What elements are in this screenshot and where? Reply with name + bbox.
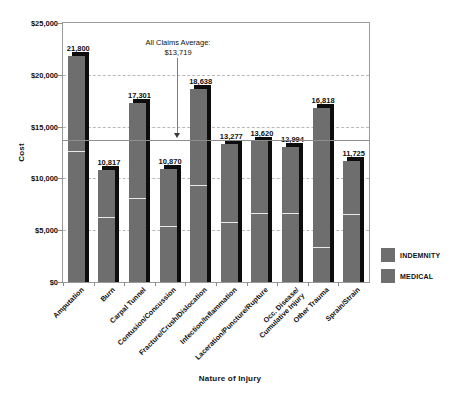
x-axis-category-label: Infection/Inflammation (179, 286, 239, 346)
bar-medical-segment[interactable] (313, 108, 330, 282)
bar-group[interactable] (160, 165, 181, 282)
x-axis-title: Nature of Injury (0, 374, 460, 383)
bar-indemnity-segment[interactable] (129, 198, 146, 282)
y-axis-tick-label: $0 (0, 278, 58, 287)
x-axis-category-line: Contusion/Concussion (116, 286, 178, 348)
bar-medical-segment[interactable] (282, 147, 299, 282)
annotation-line-1: All Claims Average: (146, 38, 211, 47)
bar-medical-segment[interactable] (343, 161, 360, 282)
x-axis-category-label: Amputation (52, 286, 86, 320)
bar-group[interactable] (98, 166, 119, 282)
bar-medical-segment[interactable] (190, 89, 207, 282)
annotation-line-2: $13,719 (118, 48, 238, 58)
bar-group[interactable] (190, 85, 211, 282)
bar-value-label: 21,800 (58, 44, 98, 53)
y-axis-tick-label: $5,000 (0, 226, 58, 235)
x-axis-category-label: Burn (99, 286, 117, 304)
chart-figure: Cost Nature of Injury $0$5,000$10,000$15… (0, 0, 460, 399)
legend-label: INDEMNITY (400, 252, 440, 259)
bar-group[interactable] (68, 52, 89, 282)
bar-group[interactable] (343, 157, 364, 282)
x-axis-category-line: Amputation (52, 286, 86, 320)
plot-inner: $0$5,000$10,000$15,000$20,000$25,000 21,… (63, 23, 369, 282)
x-axis-category-line: Infection/Inflammation (179, 286, 239, 346)
bar-indemnity-segment[interactable] (160, 226, 177, 282)
bar-indemnity-segment[interactable] (251, 213, 268, 282)
bar-group[interactable] (282, 143, 303, 282)
bar-value-label: 17,301 (120, 91, 160, 100)
bar-medical-segment[interactable] (221, 144, 238, 282)
plot-area: $0$5,000$10,000$15,000$20,000$25,000 21,… (62, 22, 370, 283)
bar-indemnity-segment[interactable] (282, 213, 299, 282)
y-axis-tick-label: $20,000 (0, 70, 58, 79)
bar-indemnity-segment[interactable] (221, 222, 238, 282)
annotation-arrow-line (177, 58, 178, 135)
bar-value-label: 11,725 (334, 149, 374, 158)
bar-medical-segment[interactable] (68, 56, 85, 282)
bar-value-label: 10,870 (150, 157, 190, 166)
x-axis-category-label: Contusion/Concussion (116, 286, 178, 348)
bar-medical-segment[interactable] (129, 103, 146, 282)
legend-swatch (381, 269, 395, 283)
legend-item[interactable]: MEDICAL (381, 269, 440, 283)
bar-group[interactable] (221, 140, 242, 282)
y-axis-tick-label: $15,000 (0, 122, 58, 131)
average-line (63, 140, 369, 141)
bar-indemnity-segment[interactable] (343, 214, 360, 282)
annotation-arrow-head-icon (174, 133, 180, 138)
bar-group[interactable] (129, 99, 150, 282)
x-axis-category-line: Burn (99, 286, 117, 304)
bar-group[interactable] (251, 137, 272, 282)
bar-indemnity-segment[interactable] (313, 247, 330, 282)
bar-medical-segment[interactable] (251, 141, 268, 282)
bar-series: 21,80010,81717,30110,87018,63813,27713,6… (63, 23, 369, 282)
legend-item[interactable]: INDEMNITY (381, 248, 440, 262)
bar-indemnity-segment[interactable] (98, 217, 115, 282)
x-axis-category-labels: AmputationBurnCarpal TunnelContusion/Con… (62, 286, 370, 372)
bar-indemnity-segment[interactable] (68, 151, 85, 282)
legend-label: MEDICAL (400, 273, 433, 280)
bar-group[interactable] (313, 104, 334, 282)
y-axis-tick-label: $25,000 (0, 19, 58, 28)
bar-value-label: 16,818 (303, 96, 343, 105)
legend-swatch (381, 248, 395, 262)
legend: INDEMNITYMEDICAL (381, 248, 440, 290)
bar-value-label: 10,817 (89, 158, 129, 167)
y-axis-tick-label: $10,000 (0, 174, 58, 183)
bar-indemnity-segment[interactable] (190, 185, 207, 282)
annotation-all-claims-average: All Claims Average: $13,719 (118, 38, 238, 58)
bar-value-label: 18,638 (181, 77, 221, 86)
bar-medical-segment[interactable] (98, 170, 115, 282)
bar-medical-segment[interactable] (160, 169, 177, 282)
